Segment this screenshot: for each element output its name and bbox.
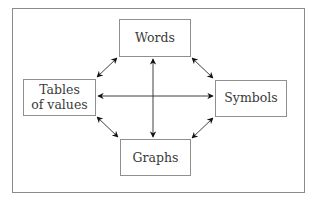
node-words: Words xyxy=(120,20,191,57)
node-symbols: Symbols xyxy=(216,81,287,117)
node-tables: Tables of values xyxy=(24,80,96,116)
graphs-label: Graphs xyxy=(133,150,179,165)
node-graphs: Graphs xyxy=(121,140,191,176)
tables-label-line-1: Tables xyxy=(39,82,80,97)
words-label: Words xyxy=(135,30,175,45)
tables-label-line-2: of values xyxy=(31,97,88,112)
representations-diagram: Words Tables of values Symbols Graphs xyxy=(0,0,317,205)
symbols-label: Symbols xyxy=(224,90,277,105)
